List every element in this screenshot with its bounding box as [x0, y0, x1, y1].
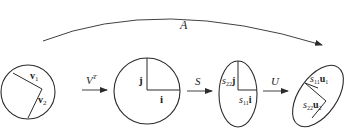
- stage-unit-circle-v: v1 v2: [1, 65, 55, 119]
- composite-label: A: [179, 18, 188, 32]
- label-i: i: [160, 93, 163, 105]
- unit-circle: [1, 65, 55, 119]
- transform-u: U: [263, 75, 288, 91]
- stage-unit-circle-ij: j i: [114, 58, 180, 124]
- label-s22j: s22j: [222, 75, 235, 87]
- label-v1: v1: [30, 70, 39, 83]
- label-j: j: [138, 74, 143, 86]
- label-s11i: s11i: [239, 94, 252, 106]
- transform-vt: VT: [82, 73, 107, 90]
- svd-diagram: A v1 v2 VT j i S s22j s11i U: [0, 0, 353, 130]
- label-s: S: [195, 75, 201, 87]
- transform-s: S: [187, 75, 212, 91]
- label-u: U: [271, 75, 280, 87]
- stage-ellipse-scaled: s22j s11i: [219, 61, 257, 127]
- composite-arrow-a: A: [43, 18, 322, 45]
- label-s22u2: s22u2: [303, 99, 321, 111]
- label-v2: v2: [38, 94, 47, 107]
- label-vt: VT: [86, 73, 98, 86]
- label-s11u1: s11u1: [310, 73, 328, 85]
- stage-ellipse-rotated: s11u1 s22u2: [282, 56, 353, 130]
